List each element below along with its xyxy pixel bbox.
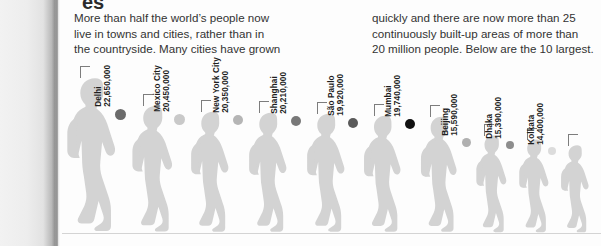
city-name: Kolkata <box>527 115 536 145</box>
walking-person-silhouette <box>303 112 349 234</box>
intro-line: quickly and there are now more than 25 <box>372 10 594 26</box>
city-label: Beijing15,590,000 <box>441 94 460 136</box>
city-label: Kolkata14,400,000 <box>527 103 546 145</box>
leader-line <box>430 105 440 117</box>
walking-person-silhouette <box>516 138 552 234</box>
city-group[interactable]: Mexico City20,450,000 <box>187 110 233 234</box>
city-population-value: 15,590,000 <box>451 94 460 136</box>
city-label: New York City20,350,000 <box>212 57 231 113</box>
walking-person-silhouette <box>187 110 233 234</box>
walking-person-silhouette <box>473 134 510 234</box>
city-population-value: 20,350,000 <box>222 71 231 113</box>
intro-line: live in towns and cities, rather than in <box>74 26 280 42</box>
chart-baseline <box>62 233 601 234</box>
city-population-dot[interactable] <box>548 147 556 155</box>
intro-line: More than half the world’s people now <box>74 10 280 26</box>
city-label: Shanghai20,210,000 <box>270 72 289 114</box>
leader-line <box>201 100 211 112</box>
city-population-value: 14,400,000 <box>537 103 546 145</box>
headline-fragment: es <box>82 0 104 14</box>
page-gutter-shadow <box>0 0 60 246</box>
city-population-dot[interactable] <box>174 114 185 125</box>
city-population-dot[interactable] <box>506 141 514 149</box>
city-population-value: 20,210,000 <box>280 72 289 114</box>
city-label: São Paulo19,920,000 <box>327 74 346 116</box>
city-population-value: 15,390,000 <box>495 97 504 139</box>
intro-text-column-2: quickly and there are now more than 25 c… <box>372 10 594 57</box>
city-population-dot[interactable] <box>233 115 243 125</box>
city-group[interactable]: New York City20,350,000 <box>245 111 291 234</box>
leader-line <box>374 104 384 116</box>
walking-person-silhouette <box>128 104 177 234</box>
city-population-value: 22,650,000 <box>104 65 113 107</box>
leader-line <box>568 134 578 146</box>
leader-line <box>80 66 90 78</box>
leader-line <box>317 102 327 114</box>
intro-line: the countryside. Many cities have grown <box>74 41 280 57</box>
walking-person-silhouette <box>558 144 592 234</box>
city-name: Mexico City <box>153 65 162 112</box>
walking-person-silhouette <box>360 114 405 234</box>
intro-line: continuously built-up areas of more than <box>372 26 594 42</box>
city-group[interactable]: Shanghai20,210,000 <box>303 112 349 234</box>
city-population-dot[interactable] <box>405 119 415 129</box>
city-name: Beijing <box>441 108 450 136</box>
city-name: Delhi <box>94 86 103 107</box>
city-label: Mumbai19,740,000 <box>384 75 403 117</box>
city-population-value: 20,450,000 <box>163 70 172 112</box>
city-group[interactable]: Dhaka15,390,000 <box>516 138 552 234</box>
city-population-dot[interactable] <box>115 109 126 120</box>
city-population-value: 19,740,000 <box>394 75 403 117</box>
city-label: Delhi22,650,000 <box>94 65 113 107</box>
city-name: New York City <box>212 57 221 113</box>
infographic-page: More than half the world’s people now li… <box>0 0 601 246</box>
city-population-dot[interactable] <box>291 116 301 126</box>
walking-person-silhouette <box>245 111 291 234</box>
intro-text-column-1: More than half the world’s people now li… <box>74 10 280 57</box>
city-label: Mexico City20,450,000 <box>153 65 172 112</box>
city-name: São Paulo <box>327 76 336 116</box>
city-population-dot[interactable] <box>462 138 471 147</box>
city-label: Dhaka15,390,000 <box>485 97 504 139</box>
city-name: Shanghai <box>270 76 279 114</box>
population-figure-chart: Tokyo37,220,000Delhi22,650,000Mexico Cit… <box>0 52 601 246</box>
city-population-value: 19,920,000 <box>337 74 346 116</box>
city-group[interactable]: São Paulo19,920,000 <box>360 114 405 234</box>
intro-line: 20 million people. Below are the 10 larg… <box>372 41 594 57</box>
city-group[interactable]: Beijing15,590,000 <box>473 134 510 234</box>
leader-line <box>259 101 269 113</box>
city-name: Dhaka <box>485 114 494 139</box>
page-gutter-edge <box>56 0 58 246</box>
city-group[interactable]: Delhi22,650,000 <box>128 104 177 234</box>
city-name: Mumbai <box>384 85 393 117</box>
leader-line <box>143 94 153 106</box>
city-group[interactable]: Kolkata14,400,000 <box>558 144 592 234</box>
city-population-dot[interactable] <box>348 118 358 128</box>
